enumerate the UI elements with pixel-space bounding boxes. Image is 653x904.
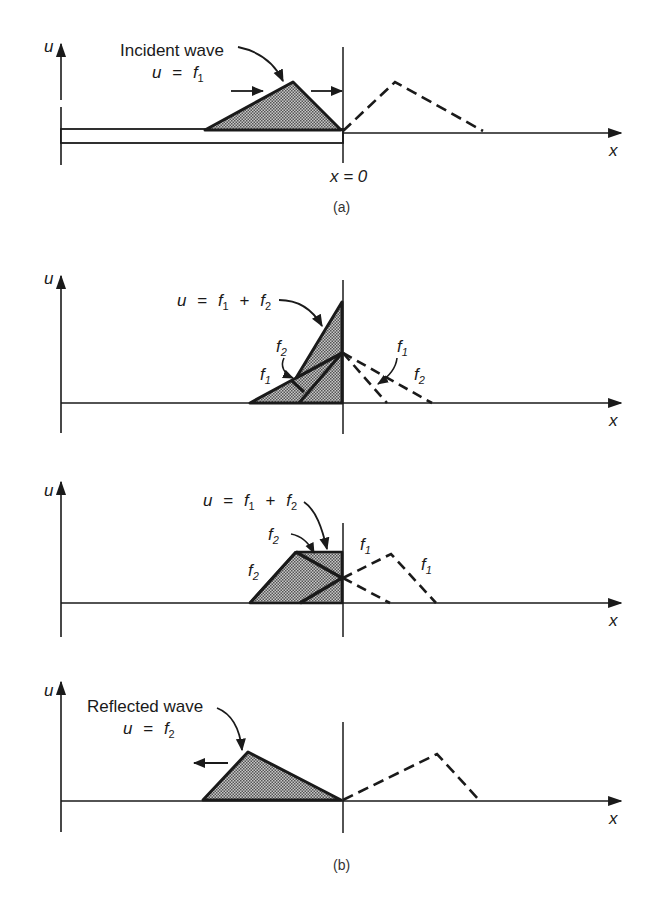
incident-wave-label: Incident wave bbox=[120, 41, 224, 60]
label-f1-b1: f1 bbox=[260, 365, 271, 386]
boundary-label: x = 0 bbox=[329, 167, 368, 186]
u-axis-label-a: u bbox=[44, 37, 54, 56]
dashed-f1-b1 bbox=[343, 353, 387, 403]
sum-pointer-arrow-b2 bbox=[304, 502, 327, 549]
reflected-wave-equation: u = f2 bbox=[123, 719, 175, 740]
f2-pointer-arrow-b1 bbox=[282, 358, 293, 378]
image-wave-dashed-a bbox=[343, 82, 483, 131]
panel-b-stage-3: u x Reflected wave u = f2 (b) bbox=[44, 681, 621, 873]
panel-a: u x Incident wave u = f1 x = 0 (a) bbox=[44, 37, 621, 215]
caption-a: (a) bbox=[333, 199, 350, 215]
u-axis-label-b2: u bbox=[44, 481, 54, 500]
dashed-f1-low-b2 bbox=[343, 578, 390, 603]
x-axis-label-b3: x bbox=[608, 809, 618, 828]
sum-equation-b2: u = f1 + f2 bbox=[203, 491, 297, 514]
image-wave-dashed-b3 bbox=[343, 754, 480, 801]
sum-wave-shape-b2 bbox=[250, 552, 342, 603]
x-axis-label-a: x bbox=[608, 141, 618, 160]
wave-reflection-diagram: u x Incident wave u = f1 x = 0 (a) u x bbox=[0, 0, 653, 904]
label-f2-b1: f2 bbox=[276, 337, 287, 358]
u-axis-label-b1: u bbox=[44, 269, 54, 288]
dashed-label-f1a-b2: f1 bbox=[360, 535, 371, 556]
x-axis-label-b2: x bbox=[608, 611, 618, 630]
f2-pointer-arrow-b2 bbox=[291, 534, 314, 553]
panel-b-stage-1: u x u = f1 + f2 f2 f1 f1 f2 bbox=[44, 269, 621, 434]
incident-pointer-arrow bbox=[238, 47, 283, 81]
reflected-wave-label: Reflected wave bbox=[87, 697, 203, 716]
incident-wave-equation: u = f1 bbox=[152, 63, 204, 84]
label-f2-left-b2: f2 bbox=[248, 561, 259, 582]
dashed-label-f2-b1: f2 bbox=[414, 365, 425, 386]
sum-equation-b1: u = f1 + f2 bbox=[177, 291, 271, 314]
sum-pointer-arrow-b1 bbox=[279, 300, 322, 326]
u-axis-label-b3: u bbox=[44, 681, 54, 700]
dashed-label-f1b-b2: f1 bbox=[421, 555, 432, 576]
dashed-f1-pointer-b1 bbox=[378, 358, 397, 384]
panel-b-stage-2: u x u = f1 + f2 f2 f2 f1 f1 bbox=[44, 481, 621, 637]
dashed-label-f1-b1: f1 bbox=[397, 337, 408, 358]
label-f2-top-b2: f2 bbox=[268, 525, 279, 546]
sum-wave-shape-b1 bbox=[250, 302, 342, 403]
incident-wave-triangle bbox=[205, 82, 341, 130]
reflected-wave-triangle bbox=[203, 752, 341, 800]
x-axis-label-b1: x bbox=[608, 411, 618, 430]
reflected-pointer-arrow bbox=[217, 708, 242, 750]
caption-b: (b) bbox=[333, 857, 350, 873]
